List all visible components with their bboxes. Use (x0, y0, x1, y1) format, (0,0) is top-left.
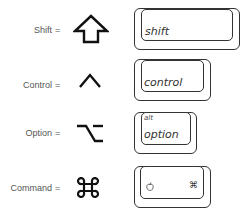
shift-key-label: shift (145, 25, 169, 38)
option-row: Option = alt option (0, 110, 249, 165)
apple-logo-icon (146, 182, 154, 191)
control-label: Control (23, 80, 52, 90)
option-icon (76, 123, 104, 144)
equals-sign: = (55, 128, 60, 138)
command-row: Command = ⌘ (0, 165, 249, 218)
control-row: Control = control (0, 55, 249, 110)
option-key-label: option (144, 128, 179, 141)
option-label: Option (25, 128, 52, 138)
equals-sign: = (55, 25, 60, 35)
shift-arrow-icon (73, 14, 109, 44)
command-label: Command (10, 183, 52, 193)
equals-sign: = (55, 80, 60, 90)
shift-row: Shift = shift (0, 0, 249, 55)
command-key-symbol: ⌘ (189, 180, 198, 190)
control-key-label: control (144, 76, 182, 89)
shift-label: Shift (34, 25, 52, 35)
control-caret-icon (78, 72, 102, 89)
command-icon (77, 177, 99, 198)
equals-sign: = (55, 183, 60, 193)
option-key-alt-label: alt (144, 114, 153, 122)
